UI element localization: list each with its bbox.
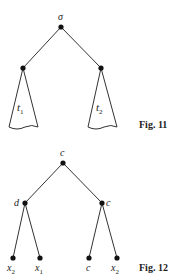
node-label-d: d	[14, 197, 20, 208]
leaf-label: x1	[34, 262, 43, 276]
tree-diagrams: σ t1 t2 Fig. 11 c d c x2 x1 c x2 Fig. 12	[0, 0, 181, 277]
internal-node-c	[99, 200, 104, 205]
node-label-c: c	[106, 197, 111, 208]
internal-node-d	[22, 200, 27, 205]
subtree-label-t1: t1	[17, 101, 24, 116]
subtree-t1	[9, 68, 38, 129]
figure-12	[13, 163, 117, 258]
subtree-label-t2: t2	[96, 101, 103, 116]
root-node	[60, 160, 65, 165]
root-node	[58, 24, 63, 29]
leaf-label: c	[86, 262, 91, 273]
leaf-label: x2	[6, 262, 15, 276]
left-node	[20, 65, 25, 70]
leaf-node	[114, 255, 119, 260]
figure-caption: Fig. 11	[139, 119, 167, 130]
leaf-label: x2	[110, 262, 119, 276]
right-node	[98, 65, 103, 70]
leaf-node	[37, 255, 42, 260]
root-label: σ	[58, 11, 64, 22]
leaf-node	[86, 255, 91, 260]
subtree-t2	[88, 68, 117, 129]
figure-caption: Fig. 12	[139, 262, 168, 273]
root-label: c	[60, 147, 65, 158]
leaf-node	[10, 255, 15, 260]
